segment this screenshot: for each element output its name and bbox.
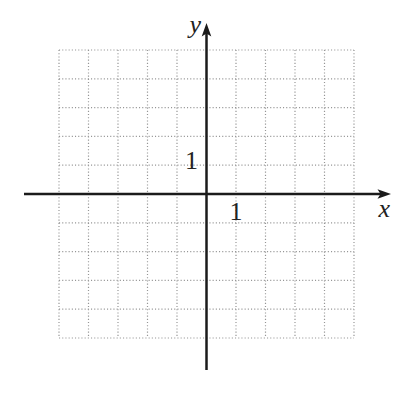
y-axis-label: y bbox=[186, 10, 201, 39]
coordinate-plane-figure: y x 1 1 bbox=[0, 0, 412, 393]
coordinate-plane: y x 1 1 bbox=[0, 0, 412, 393]
x-axis-label: x bbox=[377, 194, 390, 223]
x-axis-tick-label-1: 1 bbox=[230, 197, 243, 226]
y-axis-tick-label-1: 1 bbox=[185, 146, 198, 175]
